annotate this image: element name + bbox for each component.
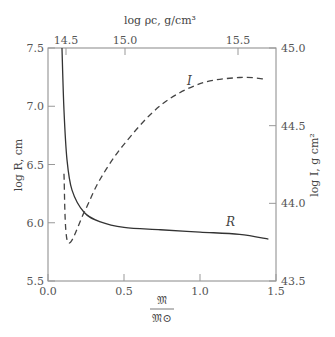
x-top-tick-label: 14.5 xyxy=(54,34,79,47)
series-I-curve xyxy=(64,77,265,243)
y-right-tick-label: 45.0 xyxy=(281,42,306,55)
y-right-tick-label: 44.0 xyxy=(281,197,306,210)
top-axis-title: log ρc, g/cm³ xyxy=(124,14,196,27)
y-tick-label: 7.5 xyxy=(27,42,45,55)
y-right-tick-label: 44.5 xyxy=(281,120,306,133)
y-right-tick-label: 43.5 xyxy=(281,275,306,288)
y-tick-label: 7.0 xyxy=(27,100,45,113)
x-top-tick-label: 15.0 xyxy=(113,34,138,47)
x-axis-title-denominator: 𝔐⊙ xyxy=(152,312,171,325)
x-axis-title-numerator: 𝔐 xyxy=(157,294,167,307)
y-tick-label: 5.5 xyxy=(27,275,45,288)
y-tick-label: 6.5 xyxy=(27,159,45,172)
plot-frame xyxy=(48,48,276,281)
chart: log ρc, g/cm³ 0.00.51.01.55.56.06.57.07.… xyxy=(0,0,335,337)
label-R: R xyxy=(225,215,235,229)
label-I: I xyxy=(186,74,192,88)
left-axis-title: log R, cm xyxy=(12,138,25,191)
right-axis-title: log I, g cm² xyxy=(308,133,321,197)
x-tick-label: 1.0 xyxy=(191,285,209,298)
x-tick-label: 0.5 xyxy=(115,285,133,298)
y-tick-label: 6.0 xyxy=(27,217,45,230)
axis-ticks: 0.00.51.01.55.56.06.57.07.543.544.044.54… xyxy=(27,34,306,298)
x-top-tick-label: 15.5 xyxy=(226,34,251,47)
series-R-curve xyxy=(62,48,268,239)
